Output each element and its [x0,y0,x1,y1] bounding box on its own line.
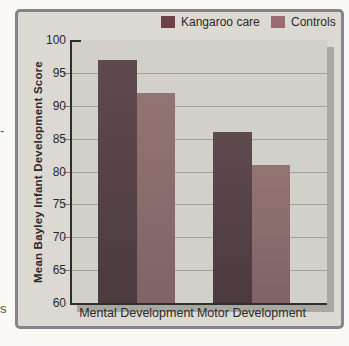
bar-controls-1 [252,165,291,303]
legend-swatch-kangaroo-care [161,16,175,28]
cropped-text-fragment: - [0,124,4,137]
figure-page: - s Kangaroo care Controls Mean Bayley I… [0,0,349,346]
legend-label-kangaroo-care: Kangaroo care [181,15,260,29]
axis-top-cap [72,40,81,42]
legend-item-kangaroo-care: Kangaroo care [161,14,260,30]
plot-area [70,40,327,305]
bar-controls-0 [137,93,176,303]
legend-swatch-controls [271,16,285,28]
bar-kangaroo-care-0 [98,60,137,303]
legend-label-controls: Controls [291,15,336,29]
legend-item-controls: Controls [271,14,336,30]
y-axis-title: Mean Bayley Infant Development Score [32,61,44,283]
bar-kangaroo-care-1 [213,132,252,303]
cropped-text-fragment: s [0,302,7,315]
